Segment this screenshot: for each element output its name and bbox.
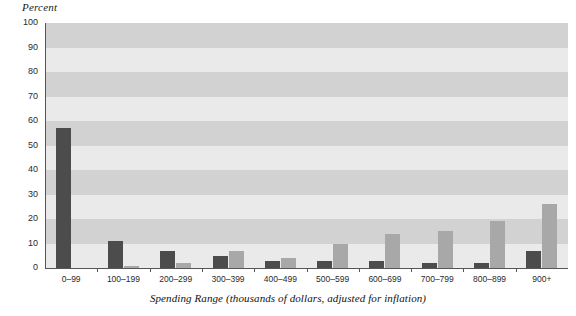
y-axis-tick-label: 70 xyxy=(0,91,38,101)
x-axis-tick-label: 100–199 xyxy=(93,274,153,284)
y-axis-tick-label: 40 xyxy=(0,164,38,174)
y-axis-tick-label: 80 xyxy=(0,66,38,76)
x-axis-tick-mark xyxy=(516,268,517,272)
chart-page: Percent 0102030405060708090100 0–99100–1… xyxy=(0,0,576,316)
x-axis-tick-mark xyxy=(359,268,360,272)
x-axis-tick-mark xyxy=(254,268,255,272)
plot-area xyxy=(45,23,568,268)
y-axis-tick-label: 60 xyxy=(0,115,38,125)
x-axis-tick-label: 500–599 xyxy=(303,274,363,284)
x-axis-tick-mark xyxy=(97,268,98,272)
bar-group xyxy=(45,23,568,268)
y-axis-line xyxy=(45,23,46,269)
x-axis-tick-label: 600–699 xyxy=(355,274,415,284)
x-axis-tick-label: 700–799 xyxy=(407,274,467,284)
y-axis-title: Percent xyxy=(22,1,57,13)
x-axis-tick-mark xyxy=(202,268,203,272)
x-axis-tick-label: 0–99 xyxy=(41,274,101,284)
y-axis-tick-label: 20 xyxy=(0,213,38,223)
x-axis-tick-label: 200–299 xyxy=(146,274,206,284)
x-axis-tick-label: 900+ xyxy=(512,274,572,284)
y-axis-tick-label: 100 xyxy=(0,17,38,27)
x-axis-tick-label: 400–499 xyxy=(250,274,310,284)
x-axis-tick-mark xyxy=(463,268,464,272)
x-axis-tick-label: 300–399 xyxy=(198,274,258,284)
y-axis-tick-label: 0 xyxy=(0,262,38,272)
x-axis-tick-mark xyxy=(150,268,151,272)
bar xyxy=(526,251,541,268)
bar-series-container xyxy=(45,23,568,268)
x-axis-title: Spending Range (thousands of dollars, ad… xyxy=(0,292,576,304)
x-axis-tick-label: 800–899 xyxy=(460,274,520,284)
y-axis-tick-label: 10 xyxy=(0,238,38,248)
x-axis-tick-mark xyxy=(411,268,412,272)
x-axis-tick-mark xyxy=(307,268,308,272)
y-axis-tick-label: 50 xyxy=(0,140,38,150)
y-axis-tick-label: 90 xyxy=(0,42,38,52)
y-axis-tick-label: 30 xyxy=(0,189,38,199)
bar xyxy=(542,204,557,268)
